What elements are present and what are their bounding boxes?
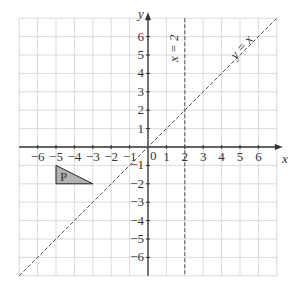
y-tick-label: −1 — [130, 157, 144, 172]
y-tick-label: 2 — [138, 102, 145, 117]
y-tick-label: −6 — [130, 249, 144, 264]
y-tick-label: −2 — [130, 176, 144, 191]
y-tick-label: 3 — [138, 84, 145, 99]
coordinate-plane: −6−5−4−3−2−1123456654321−1−2−3−4−5−6 x y… — [0, 0, 294, 294]
x-tick-label: −6 — [31, 149, 45, 164]
y-tick-label: 5 — [138, 47, 145, 62]
x-axis-label: x — [281, 151, 288, 166]
x-axis-arrow-icon — [275, 144, 283, 150]
y-tick-label: 6 — [138, 29, 145, 44]
x-tick-label: 6 — [255, 149, 262, 164]
x-tick-label: 5 — [237, 149, 244, 164]
shape-p-label: P — [60, 169, 67, 184]
x-tick-label: 3 — [200, 149, 207, 164]
x-tick-label: −2 — [104, 149, 118, 164]
x-tick-label: −3 — [86, 149, 100, 164]
origin-label: 0 — [150, 148, 157, 163]
y-axis-arrow-icon — [145, 12, 151, 20]
y-tick-label: −4 — [130, 213, 144, 228]
y-tick-label: 4 — [138, 65, 145, 80]
x-tick-label: 4 — [218, 149, 225, 164]
x-tick-label: −5 — [49, 149, 63, 164]
y-tick-label: 1 — [138, 121, 145, 136]
y-tick-label: −5 — [130, 231, 144, 246]
line-x-equals-2-label: x = 2 — [166, 34, 181, 63]
x-tick-label: −4 — [67, 149, 81, 164]
y-tick-label: −3 — [130, 194, 144, 209]
x-tick-label: 1 — [163, 149, 170, 164]
y-axis-label: y — [136, 6, 144, 21]
